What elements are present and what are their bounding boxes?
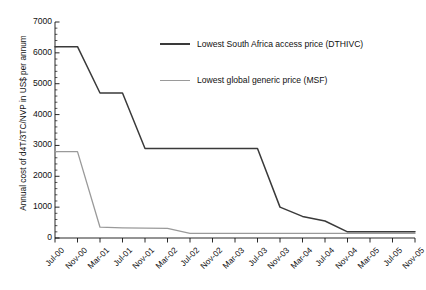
legend-label: Lowest South Africa access price (DTHIVC… [197,39,363,49]
legend-swatch-line-icon [160,80,190,81]
legend-item-1: Lowest global generic price (MSF) [160,69,410,91]
legend-swatch-line-icon [160,43,190,45]
legend-item-0: Lowest South Africa access price (DTHIVC… [160,33,410,55]
chart-legend: Lowest South Africa access price (DTHIVC… [160,33,410,105]
legend-label: Lowest global generic price (MSF) [197,75,327,85]
figure-caption [2,283,420,290]
